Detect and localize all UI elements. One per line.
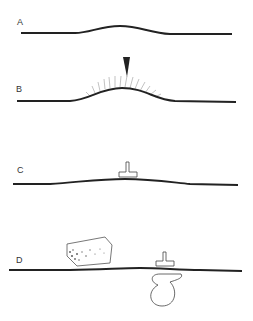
- t-object-d: [156, 252, 174, 266]
- diagram-canvas: [0, 0, 253, 321]
- loop-d: [151, 274, 182, 306]
- block-d: [67, 237, 112, 266]
- t-object-c: [119, 162, 137, 177]
- surface-line-d: [9, 268, 242, 271]
- arrow-icon: [123, 57, 130, 77]
- surface-line-b: [17, 88, 236, 102]
- surface-line-a: [21, 26, 232, 34]
- surface-line-c: [13, 179, 238, 185]
